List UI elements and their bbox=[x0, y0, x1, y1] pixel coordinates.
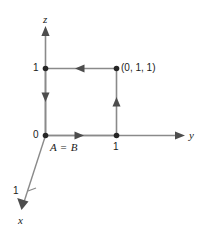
y-axis-arrowhead bbox=[175, 131, 185, 139]
coordinate-diagram: z y x 1 0 1 1 (0, 1, 1) A = B bbox=[0, 0, 206, 234]
z-axis-label: z bbox=[43, 14, 47, 25]
left-edge-arrow bbox=[42, 93, 50, 103]
right-edge-arrow bbox=[113, 97, 121, 107]
x-axis-tick-label-1: 1 bbox=[13, 186, 19, 196]
path-direction-arrows bbox=[42, 65, 121, 140]
x-axis-arrowhead bbox=[17, 198, 28, 210]
origin-dot bbox=[43, 133, 49, 139]
x-axis-label: x bbox=[18, 215, 23, 226]
top-edge-arrow bbox=[75, 65, 85, 73]
vertex-dot bbox=[114, 66, 120, 72]
x-axis-tick-one bbox=[28, 188, 36, 191]
y-one-dot bbox=[114, 133, 120, 139]
z-axis-tick-label-1: 1 bbox=[33, 63, 39, 73]
y-axis-tick-label-1: 1 bbox=[113, 142, 119, 152]
z-one-dot bbox=[43, 66, 49, 72]
bottom-edge-arrow bbox=[75, 132, 85, 140]
start-end-label: A = B bbox=[50, 142, 78, 153]
origin-tick-label: 0 bbox=[33, 130, 39, 140]
z-axis-arrowhead bbox=[41, 26, 49, 36]
x-axis bbox=[17, 136, 45, 211]
square-path bbox=[46, 69, 117, 136]
y-axis-label: y bbox=[189, 130, 194, 141]
diagram-canvas bbox=[0, 0, 206, 234]
vertex-dots bbox=[43, 66, 120, 139]
vertex-point-label: (0, 1, 1) bbox=[121, 63, 155, 73]
